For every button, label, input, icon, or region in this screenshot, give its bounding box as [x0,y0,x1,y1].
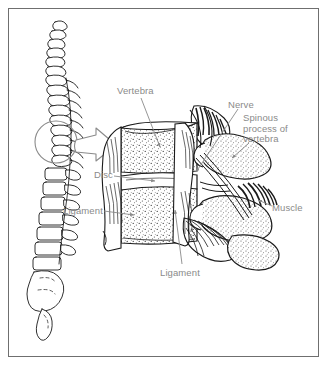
anterior-ligament [102,127,122,251]
figure-root: Vertebra Nerve Spinous process of verteb… [0,0,329,367]
label-spinous-process: Spinous process of vertebra [243,113,288,145]
anatomy-illustration [0,0,329,367]
spine-lateral-view [27,21,83,340]
label-muscle: Muscle [272,203,303,214]
label-vertebra: Vertebra [117,86,154,97]
label-ligament-left: Ligament [63,206,103,217]
label-ligament-bottom: Ligament [160,268,200,279]
label-disc: Disc [94,170,113,181]
label-nerve: Nerve [228,100,254,111]
